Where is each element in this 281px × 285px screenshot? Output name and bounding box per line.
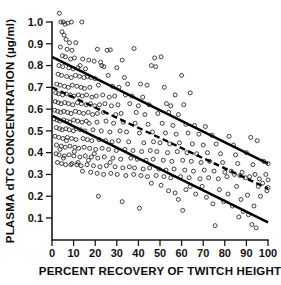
data-point: [156, 111, 160, 115]
data-point: [104, 164, 108, 168]
data-point: [68, 144, 72, 148]
data-point: [73, 145, 77, 149]
data-point: [60, 162, 64, 166]
data-point: [78, 155, 82, 159]
data-point: [253, 172, 257, 176]
data-point: [169, 104, 173, 108]
data-point: [107, 147, 111, 151]
data-point: [102, 172, 106, 176]
data-point: [69, 76, 73, 80]
data-point: [201, 143, 205, 147]
data-point: [266, 178, 270, 182]
data-point: [252, 204, 256, 208]
data-point: [254, 226, 258, 230]
data-point: [116, 103, 120, 107]
x-tick-label: 40: [132, 247, 144, 259]
data-point: [170, 159, 174, 163]
y-tick-label: 0.2: [28, 190, 43, 202]
data-point: [249, 135, 253, 139]
y-tick-label: 0.6: [28, 103, 43, 115]
x-tick-label: 50: [154, 247, 166, 259]
x-tick-label: 80: [219, 247, 231, 259]
data-point: [88, 85, 92, 89]
data-point: [174, 132, 178, 136]
data-point: [227, 134, 231, 138]
data-point: [109, 171, 113, 175]
x-axis-ticks: 0102030405060708090100: [49, 240, 277, 259]
y-axis-ticks: 0.10.20.30.40.50.60.70.80.91.0: [28, 16, 52, 224]
data-point: [75, 84, 79, 88]
data-point: [83, 154, 87, 158]
data-point: [120, 200, 124, 204]
data-point: [90, 139, 94, 143]
data-point: [226, 192, 230, 196]
data-point: [137, 131, 141, 135]
data-point: [140, 150, 144, 154]
data-point: [77, 110, 81, 114]
data-point: [122, 76, 126, 80]
data-point: [55, 160, 59, 164]
data-point: [248, 175, 252, 179]
data-point: [82, 111, 86, 115]
data-point: [197, 132, 201, 136]
data-point: [68, 41, 72, 45]
data-point: [87, 158, 91, 162]
data-point: [213, 224, 217, 228]
data-point: [118, 129, 122, 133]
data-point: [96, 194, 100, 198]
data-point: [127, 140, 131, 144]
data-point: [100, 146, 104, 150]
data-point: [128, 102, 132, 106]
data-point: [92, 59, 96, 63]
data-point: [187, 176, 191, 180]
data-point: [191, 169, 195, 173]
data-point: [82, 145, 86, 149]
data-point: [221, 160, 225, 164]
x-tick-label: 60: [175, 247, 187, 259]
x-tick-label: 100: [259, 247, 277, 259]
data-point: [126, 82, 130, 86]
data-point: [175, 150, 179, 154]
data-point: [180, 73, 184, 77]
data-point: [72, 150, 76, 154]
data-point: [194, 192, 198, 196]
data-point: [109, 104, 113, 108]
data-point: [57, 135, 61, 139]
data-point: [65, 74, 69, 78]
data-point: [216, 177, 220, 181]
data-point: [162, 85, 166, 89]
data-point: [72, 118, 76, 122]
data-point: [108, 160, 112, 164]
data-point: [77, 146, 81, 150]
data-point: [171, 123, 175, 127]
data-point: [250, 223, 254, 227]
y-tick-label: 1.0: [28, 16, 43, 28]
data-point: [139, 82, 143, 86]
data-point: [107, 95, 111, 99]
y-tick-label: 0.8: [28, 59, 43, 71]
data-point: [153, 56, 157, 60]
data-point: [251, 163, 255, 167]
data-point: [81, 57, 85, 61]
y-axis-title: PLASMA dTC CONCENTRATION (µg/ml): [4, 19, 16, 243]
data-point: [203, 125, 207, 129]
data-point: [184, 188, 188, 192]
data-point: [188, 91, 192, 95]
data-point: [141, 95, 145, 99]
data-point: [166, 151, 170, 155]
data-point: [63, 145, 67, 149]
x-tick-label: 10: [67, 247, 79, 259]
data-point: [223, 170, 227, 174]
data-point: [186, 131, 190, 135]
data-point: [80, 169, 84, 173]
data-point: [121, 166, 125, 170]
data-point: [142, 141, 146, 145]
data-point: [103, 102, 107, 106]
data-point: [190, 142, 194, 146]
data-point: [133, 166, 137, 170]
data-point: [202, 168, 206, 172]
data-point: [258, 194, 262, 198]
data-point: [74, 73, 78, 77]
data-point: [141, 167, 145, 171]
data-point: [145, 83, 149, 87]
